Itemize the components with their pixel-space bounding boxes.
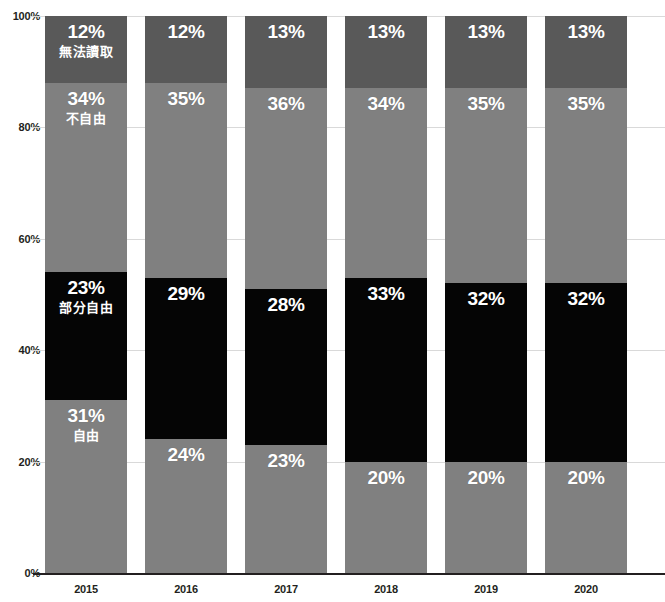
bar-segment-unrated[interactable]: 13%	[345, 16, 427, 88]
x-axis-label-2018: 2018	[345, 583, 427, 595]
x-axis-label-2019: 2019	[445, 583, 527, 595]
bar-segment-value: 35%	[468, 94, 505, 114]
bar-segment-notfree[interactable]: 34%	[345, 88, 427, 277]
bar-segment-unrated[interactable]: 12%無法讀取	[45, 16, 127, 83]
bar-segment-notfree[interactable]: 34%不自由	[45, 83, 127, 272]
bar-segment-free[interactable]: 20%	[445, 462, 527, 573]
bar-segment-unrated[interactable]: 12%	[145, 16, 227, 83]
bar-segment-value: 13%	[368, 22, 405, 42]
bar-segment-value: 23%	[68, 278, 105, 298]
bar-segment-free[interactable]: 20%	[345, 462, 427, 573]
bar-segment-value: 20%	[568, 468, 605, 488]
bar-segment-partly[interactable]: 29%	[145, 278, 227, 440]
bar-segment-value: 20%	[468, 468, 505, 488]
bar-segment-value: 36%	[268, 94, 305, 114]
bar-segment-value: 32%	[568, 289, 605, 309]
bar-segment-partly[interactable]: 32%	[545, 283, 627, 461]
bar-segment-partly[interactable]: 33%	[345, 278, 427, 462]
x-axis-baseline	[33, 573, 665, 575]
bar-segment-notfree[interactable]: 36%	[245, 88, 327, 289]
bar-segment-value: 13%	[568, 22, 605, 42]
bar-segment-value: 12%	[168, 22, 205, 42]
bar-segment-notfree[interactable]: 35%	[145, 83, 227, 278]
bar-segment-partly[interactable]: 28%	[245, 289, 327, 445]
bar-segment-unrated[interactable]: 13%	[245, 16, 327, 88]
bar-segment-value: 32%	[468, 289, 505, 309]
bar-segment-value: 13%	[468, 22, 505, 42]
bar-group[interactable]: 13%36%28%23%	[245, 16, 327, 573]
bar-segment-series-label: 部分自由	[59, 299, 113, 317]
bar-segment-value: 24%	[168, 445, 205, 465]
plot-area: 12%無法讀取34%不自由23%部分自由31%自由12%35%29%24%13%…	[45, 16, 646, 573]
bar-segment-value: 35%	[568, 94, 605, 114]
bar-segment-value: 28%	[268, 295, 305, 315]
bar-segment-value: 34%	[68, 89, 105, 109]
bar-segment-series-label: 不自由	[66, 110, 107, 128]
bar-segment-series-label: 自由	[73, 427, 100, 445]
bar-segment-value: 13%	[268, 22, 305, 42]
bar-segment-value: 33%	[368, 284, 405, 304]
bar-group[interactable]: 13%35%32%20%	[545, 16, 627, 573]
bar-segment-free[interactable]: 31%自由	[45, 400, 127, 573]
bar-segment-value: 12%	[68, 22, 105, 42]
bar-group[interactable]: 13%34%33%20%	[345, 16, 427, 573]
x-axis-label-2016: 2016	[145, 583, 227, 595]
bar-segment-value: 34%	[368, 94, 405, 114]
bar-segment-unrated[interactable]: 13%	[445, 16, 527, 88]
stacked-bar-chart: 0%20%40%60%80%100% 12%無法讀取34%不自由23%部分自由3…	[0, 0, 665, 602]
bar-segment-series-label: 無法讀取	[59, 43, 113, 61]
x-axis-label-2020: 2020	[545, 583, 627, 595]
x-axis-label-2015: 2015	[45, 583, 127, 595]
bar-segment-value: 31%	[68, 406, 105, 426]
bar-segment-notfree[interactable]: 35%	[445, 88, 527, 283]
bar-group[interactable]: 12%35%29%24%	[145, 16, 227, 573]
bar-segment-value: 29%	[168, 284, 205, 304]
x-axis-label-2017: 2017	[245, 583, 327, 595]
bar-segment-partly[interactable]: 32%	[445, 283, 527, 461]
bar-segment-value: 20%	[368, 468, 405, 488]
bar-segment-unrated[interactable]: 13%	[545, 16, 627, 88]
bar-segment-value: 23%	[268, 451, 305, 471]
bar-segment-notfree[interactable]: 35%	[545, 88, 627, 283]
bar-segment-value: 35%	[168, 89, 205, 109]
bar-segment-free[interactable]: 20%	[545, 462, 627, 573]
bar-group[interactable]: 13%35%32%20%	[445, 16, 527, 573]
bar-group[interactable]: 12%無法讀取34%不自由23%部分自由31%自由	[45, 16, 127, 573]
bar-segment-free[interactable]: 23%	[245, 445, 327, 573]
bar-segment-partly[interactable]: 23%部分自由	[45, 272, 127, 400]
bar-segment-free[interactable]: 24%	[145, 439, 227, 573]
